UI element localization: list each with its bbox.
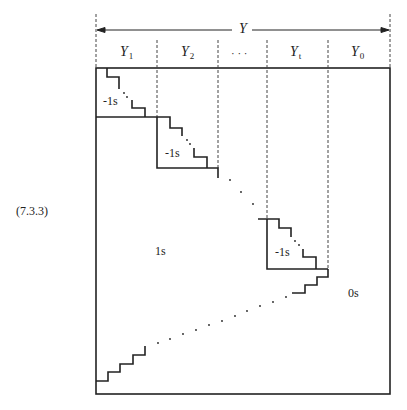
block-2-label: -1s [165, 147, 180, 159]
region-zeros-label: 0s [348, 287, 359, 299]
block-2-stairs-top [157, 117, 182, 136]
block-3-label: -1s [275, 246, 290, 258]
region-ones-label: 1s [155, 245, 166, 257]
block-1-stairs-bottom [132, 100, 145, 117]
column-label-ellipsis: · · · [231, 48, 248, 59]
block-3-stairs-top [258, 219, 291, 237]
ellipsis-dots [123, 92, 300, 344]
block-1-stairs-top [107, 68, 119, 89]
total-dimension-label: Y [237, 22, 249, 36]
anti-stairs-lower [96, 346, 145, 381]
block-1-label: -1s [103, 95, 118, 107]
column-label-yt: Yt [290, 45, 301, 61]
block-3-left-bottom [267, 219, 328, 269]
column-label-y2: Y2 [181, 45, 194, 61]
block-3-stairs-bottom [303, 249, 316, 269]
column-label-y1: Y1 [120, 45, 133, 61]
anti-stairs-upper [292, 269, 328, 293]
column-label-y0: Y0 [351, 45, 364, 61]
equation-number: (7.3.3) [16, 205, 48, 217]
matrix-structure-diagram [0, 0, 407, 410]
block-2-stairs-bottom [194, 148, 207, 168]
